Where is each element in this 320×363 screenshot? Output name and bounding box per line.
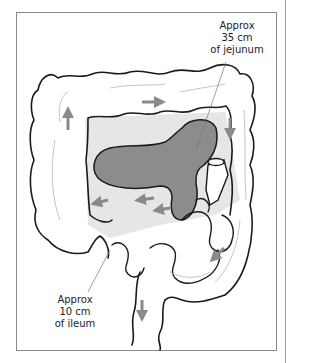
ileum-label-line1: Approx [50, 294, 100, 306]
jejunum-label-line3: of jejunum [200, 44, 274, 56]
ileum-label-line2: 10 cm [50, 306, 100, 318]
ileum-arrow-inner [158, 208, 170, 210]
ileum-label: Approx 10 cm of ileum [50, 294, 100, 330]
ileum-arrow-mid [140, 198, 154, 200]
rectum-outline [132, 272, 165, 350]
jejunum-label: Approx 35 cm of jejunum [200, 20, 274, 56]
jejunum-label-line2: 35 cm [200, 32, 274, 44]
jejunum-label-line1: Approx [200, 20, 274, 32]
ileum-leader-line [88, 250, 110, 292]
ileum-label-line3: of ileum [50, 318, 100, 330]
